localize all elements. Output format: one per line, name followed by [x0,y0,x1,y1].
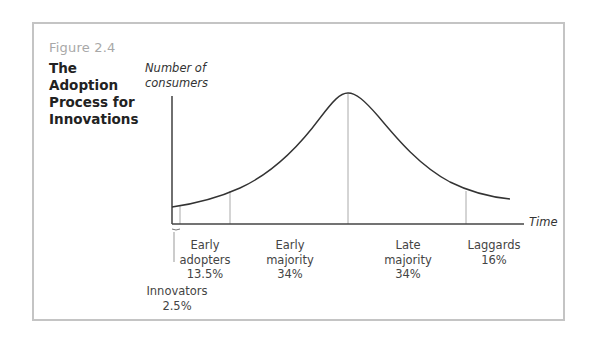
adoption-curve-chart [0,0,599,341]
segment-percent: 34% [384,267,432,282]
segment-label-early-majority: Early majority 34% [266,238,314,282]
innovators-bracket [172,229,180,230]
segment-name-line: majority [384,253,432,268]
adoption-curve [172,93,510,207]
segment-percent: 34% [266,267,314,282]
segment-label-laggards: Laggards 16% [468,238,521,267]
segment-label-early-adopters: Early adopters 13.5% [180,238,231,282]
segment-name-line: Late [384,238,432,253]
segment-percent: 13.5% [180,267,231,282]
segment-label-innovators: Innovators 2.5% [146,284,207,313]
segment-label-late-majority: Late majority 34% [384,238,432,282]
segment-name: Laggards [468,238,521,253]
segment-name-line: Early [180,238,231,253]
segment-percent: 16% [468,253,521,268]
segment-name-line: majority [266,253,314,268]
segment-percent: 2.5% [146,299,207,314]
segment-name: Innovators [146,284,207,299]
segment-name-line: adopters [180,253,231,268]
segment-name-line: Early [266,238,314,253]
